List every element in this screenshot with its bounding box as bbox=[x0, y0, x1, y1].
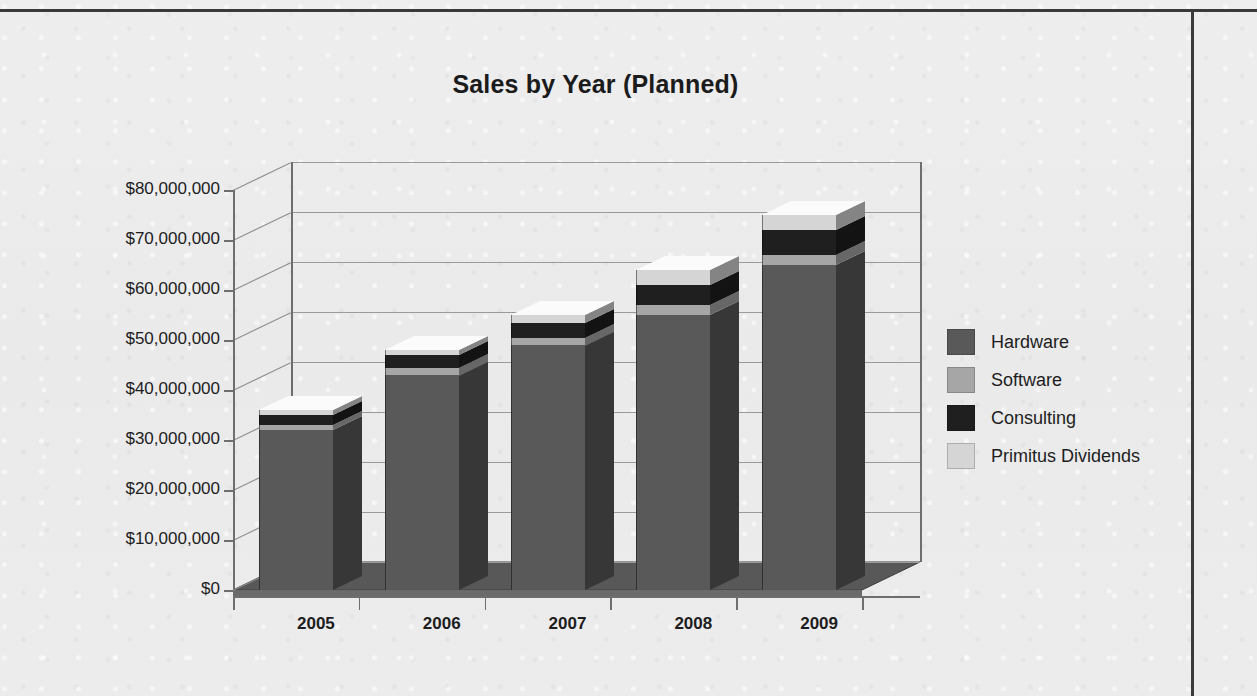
bar-segment-front bbox=[636, 315, 710, 590]
bar-segment-front bbox=[636, 305, 710, 315]
bar-segment[interactable] bbox=[385, 368, 459, 376]
bar-segment[interactable] bbox=[762, 215, 836, 230]
chart-legend: HardwareSoftwareConsultingPrimitus Divid… bbox=[947, 323, 1187, 475]
y-axis-tick bbox=[224, 290, 233, 292]
bar-column[interactable] bbox=[636, 0, 710, 696]
y-axis-tick-label: $50,000,000 bbox=[60, 329, 220, 349]
y-axis-tick bbox=[224, 190, 233, 192]
bar-segment[interactable] bbox=[511, 338, 585, 346]
bar-segment-front bbox=[259, 425, 333, 430]
y-axis-tick bbox=[224, 240, 233, 242]
legend-item[interactable]: Primitus Dividends bbox=[947, 437, 1187, 475]
bar-segment-front bbox=[511, 315, 585, 323]
bar-segment-front bbox=[259, 410, 333, 415]
bar-segment[interactable] bbox=[636, 305, 710, 315]
bar-segment[interactable] bbox=[511, 323, 585, 338]
x-axis-tick-label: 2008 bbox=[638, 614, 748, 634]
bar-segment-front bbox=[762, 265, 836, 590]
bar-segment-front bbox=[259, 430, 333, 590]
legend-item[interactable]: Consulting bbox=[947, 399, 1187, 437]
bar-segment-front bbox=[385, 368, 459, 376]
bar-segment[interactable] bbox=[636, 285, 710, 305]
x-axis-tick-label: 2007 bbox=[513, 614, 623, 634]
y-axis-back-right bbox=[920, 162, 922, 562]
x-axis-tick bbox=[610, 596, 612, 610]
bar-segment[interactable] bbox=[511, 315, 585, 323]
bar-column[interactable] bbox=[762, 0, 836, 696]
bar-segment-side bbox=[333, 416, 362, 590]
bar-segment-front bbox=[385, 375, 459, 590]
y-axis-tick-label: $60,000,000 bbox=[60, 279, 220, 299]
y-axis-tick bbox=[224, 590, 233, 592]
legend-swatch bbox=[947, 443, 975, 469]
x-axis-tick-label: 2009 bbox=[764, 614, 874, 634]
bar-segment-front bbox=[259, 415, 333, 425]
legend-swatch bbox=[947, 367, 975, 393]
x-axis-tick bbox=[862, 596, 864, 610]
y-axis-tick-label: $30,000,000 bbox=[60, 429, 220, 449]
y-axis-tick-label: $20,000,000 bbox=[60, 479, 220, 499]
bar-segment-front bbox=[762, 255, 836, 265]
x-axis-tick bbox=[233, 596, 235, 610]
bar-segment[interactable] bbox=[385, 375, 459, 590]
legend-item[interactable]: Hardware bbox=[947, 323, 1187, 361]
bar-segment[interactable] bbox=[259, 410, 333, 415]
bar-segment-front bbox=[636, 270, 710, 285]
legend-swatch bbox=[947, 329, 975, 355]
bar-segment[interactable] bbox=[762, 230, 836, 255]
bar-column[interactable] bbox=[385, 0, 459, 696]
bar-segment[interactable] bbox=[259, 425, 333, 430]
sales-by-year-chart: Sales by Year (Planned) $0$10,000,000$20… bbox=[0, 0, 1191, 696]
legend-label: Primitus Dividends bbox=[991, 446, 1140, 467]
bar-segment-side bbox=[836, 251, 865, 590]
bar-segment[interactable] bbox=[259, 430, 333, 590]
bar-segment-side bbox=[585, 331, 614, 590]
legend-item[interactable]: Software bbox=[947, 361, 1187, 399]
y-axis-tick bbox=[224, 540, 233, 542]
y-axis-tick bbox=[224, 440, 233, 442]
bar-segment[interactable] bbox=[259, 415, 333, 425]
y-axis-tick-label: $80,000,000 bbox=[60, 179, 220, 199]
bar-segment-front bbox=[385, 350, 459, 355]
bar-segment[interactable] bbox=[762, 255, 836, 265]
x-axis-tick-label: 2006 bbox=[387, 614, 497, 634]
bar-segment[interactable] bbox=[385, 350, 459, 355]
y-axis-tick bbox=[224, 490, 233, 492]
bar-column[interactable] bbox=[511, 0, 585, 696]
bar-segment-front bbox=[511, 323, 585, 338]
x-axis-tick bbox=[359, 596, 361, 610]
bar-segment-side bbox=[710, 301, 739, 590]
y-axis-tick-label: $40,000,000 bbox=[60, 379, 220, 399]
bar-segment[interactable] bbox=[636, 315, 710, 590]
bar-segment[interactable] bbox=[511, 345, 585, 590]
bar-segment-side bbox=[459, 361, 488, 590]
bar-segment[interactable] bbox=[636, 270, 710, 285]
page-border-right bbox=[1191, 9, 1194, 696]
bar-segment-front bbox=[385, 355, 459, 368]
bar-segment[interactable] bbox=[385, 355, 459, 368]
y-axis-front bbox=[233, 190, 235, 590]
legend-label: Hardware bbox=[991, 332, 1069, 353]
legend-swatch bbox=[947, 405, 975, 431]
bar-segment-front bbox=[511, 338, 585, 346]
bar-segment-front bbox=[762, 215, 836, 230]
x-axis-tick-label: 2005 bbox=[261, 614, 371, 634]
bar-segment[interactable] bbox=[762, 265, 836, 590]
y-axis-tick bbox=[224, 340, 233, 342]
y-axis-tick bbox=[224, 390, 233, 392]
bar-segment-front bbox=[511, 345, 585, 590]
bar-segment-front bbox=[762, 230, 836, 255]
x-axis-tick bbox=[736, 596, 738, 610]
legend-label: Software bbox=[991, 370, 1062, 391]
y-axis-tick-label: $70,000,000 bbox=[60, 229, 220, 249]
y-axis-tick-label: $0 bbox=[60, 579, 220, 599]
x-axis-tick bbox=[485, 596, 487, 610]
bar-segment-front bbox=[636, 285, 710, 305]
y-axis-tick-label: $10,000,000 bbox=[60, 529, 220, 549]
legend-label: Consulting bbox=[991, 408, 1076, 429]
bar-column[interactable] bbox=[259, 0, 333, 696]
